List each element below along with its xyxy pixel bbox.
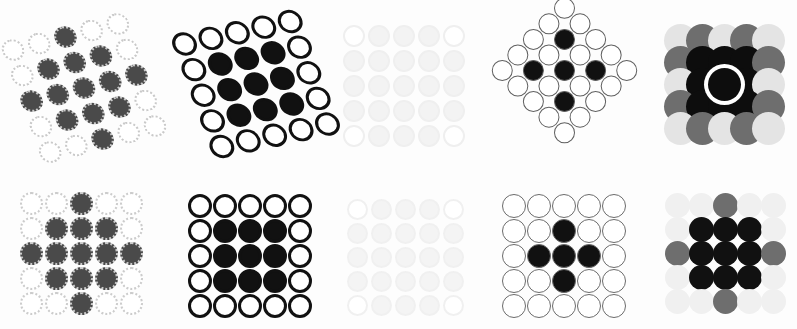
open-circle [169,30,201,58]
lattice-panel-2 [186,14,326,154]
open-circle [527,269,551,293]
filled-circle [419,199,440,220]
filled-circle [552,244,576,268]
filled-circle [347,223,368,244]
circle-lattice-figure [0,0,797,329]
filled-circle [395,295,416,316]
open-circle [95,192,118,215]
open-circle [188,194,212,218]
open-circle [195,24,227,52]
filled-circle [45,242,68,265]
open-circle [213,294,237,318]
open-circle [8,62,37,88]
lattice-grid [18,190,144,316]
open-circle [502,269,526,293]
filled-circle [79,100,108,126]
open-circle [213,194,237,218]
filled-circle [393,125,415,147]
filled-circle [689,217,714,242]
filled-circle [552,269,576,293]
filled-circle [713,265,738,290]
filled-circle [34,56,63,82]
open-circle [178,56,210,84]
filled-circle [88,126,117,152]
lattice-grid [666,190,784,316]
filled-circle [343,100,365,122]
open-circle [120,217,143,240]
open-circle [602,269,626,293]
lattice-panel-1 [14,18,154,158]
open-circle [443,25,465,47]
filled-circle [443,271,464,292]
filled-circle [371,271,392,292]
filled-circle [443,75,465,97]
filled-circle [204,50,236,78]
open-circle [443,199,464,220]
filled-circle [368,50,390,72]
filled-circle [238,269,262,293]
open-circle [737,193,762,218]
filled-circle [418,125,440,147]
filled-circle [713,217,738,242]
filled-circle [347,271,368,292]
filled-circle [577,244,601,268]
lattice-grid [163,3,348,165]
filled-circle [689,241,714,266]
filled-circle [45,217,68,240]
open-circle [347,295,368,316]
open-circle [274,8,306,36]
filled-circle [443,50,465,72]
filled-circle [120,242,143,265]
open-circle [577,269,601,293]
filled-circle [263,244,287,268]
filled-circle [95,217,118,240]
open-circle [20,267,43,290]
filled-circle [60,49,89,75]
filled-circle [395,199,416,220]
filled-circle [231,44,263,72]
open-circle [188,219,212,243]
filled-circle [395,247,416,268]
filled-circle [53,107,82,133]
open-circle [62,133,91,159]
filled-circle [122,62,151,88]
open-circle [284,33,316,61]
filled-circle [20,242,43,265]
filled-circle [737,241,762,266]
filled-circle [70,217,93,240]
filled-circle [418,25,440,47]
open-circle [77,17,106,43]
filled-circle [418,100,440,122]
lattice-grid [186,192,314,320]
open-circle [263,294,287,318]
open-circle [502,244,526,268]
filled-circle [689,265,714,290]
open-circle [188,294,212,318]
filled-circle [263,219,287,243]
lattice-grid [672,24,776,144]
filled-circle [70,292,93,315]
open-circle [36,139,65,165]
filled-circle [17,88,46,114]
open-circle [120,292,143,315]
filled-circle [70,75,99,101]
open-circle [343,25,365,47]
open-circle [761,265,786,290]
open-circle [761,193,786,218]
open-circle [312,110,344,138]
filled-circle [419,295,440,316]
filled-circle [213,219,237,243]
open-circle [288,269,312,293]
filled-circle [418,50,440,72]
open-circle [689,193,714,218]
filled-circle [419,247,440,268]
open-circle [288,219,312,243]
filled-circle [213,244,237,268]
open-circle [737,289,762,314]
filled-circle [393,50,415,72]
filled-circle [267,65,299,93]
open-circle [602,194,626,218]
open-circle [602,219,626,243]
open-circle [103,11,132,37]
open-circle [527,194,551,218]
